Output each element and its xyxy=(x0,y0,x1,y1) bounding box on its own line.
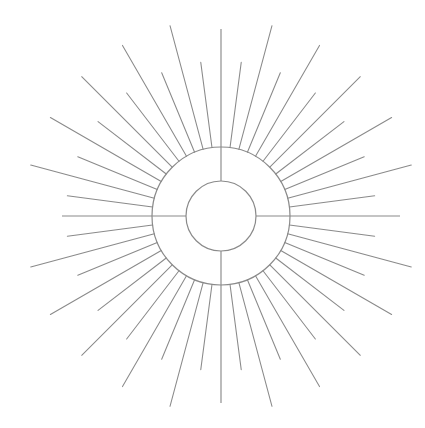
sun-ray xyxy=(239,26,272,150)
sun-ray xyxy=(162,73,195,152)
sun-ray xyxy=(127,271,179,339)
sun-ray xyxy=(270,265,361,356)
sun-ray xyxy=(247,73,280,152)
sun-ray xyxy=(201,62,212,147)
sunburst-drawing xyxy=(0,0,425,428)
sun-ray xyxy=(162,280,195,359)
sun-ray xyxy=(67,196,152,207)
sun-ray xyxy=(263,93,315,161)
sun-ray xyxy=(67,225,152,236)
sun-ray xyxy=(82,265,173,356)
sun-ray xyxy=(285,157,364,190)
sun-ray xyxy=(170,26,203,150)
sun-ray xyxy=(288,234,412,267)
sun-ray xyxy=(201,284,212,369)
sun-ray xyxy=(263,271,315,339)
sun-ray xyxy=(289,196,374,207)
sun-ray xyxy=(82,77,173,168)
sun-ray xyxy=(98,258,166,310)
artwork-canvas xyxy=(0,0,425,428)
sun-ray xyxy=(170,283,203,407)
sun-ray xyxy=(276,122,344,174)
inner-circle xyxy=(186,181,256,251)
axis-group xyxy=(62,29,400,403)
sun-ray xyxy=(31,234,155,267)
sun-ray xyxy=(31,165,155,198)
sun-ray xyxy=(230,284,241,369)
sun-ray xyxy=(270,77,361,168)
sun-ray xyxy=(127,93,179,161)
sun-ray xyxy=(289,225,374,236)
sun-ray xyxy=(288,165,412,198)
sun-ray xyxy=(285,242,364,275)
sun-ray xyxy=(276,258,344,310)
sun-ray xyxy=(230,62,241,147)
sun-ray xyxy=(247,280,280,359)
sun-ray xyxy=(78,157,157,190)
sun-ray xyxy=(98,122,166,174)
sun-ray xyxy=(239,283,272,407)
sun-ray xyxy=(78,242,157,275)
